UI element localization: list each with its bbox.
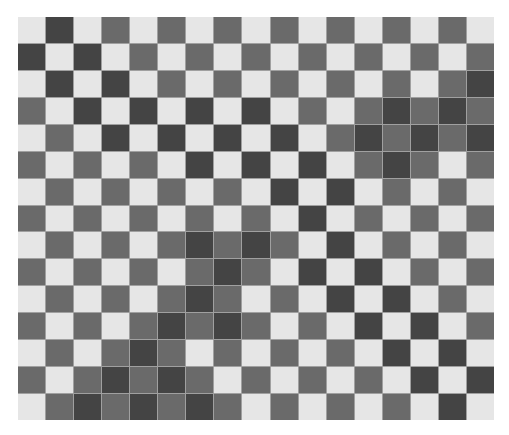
board-cell[interactable] (130, 206, 157, 232)
board-cell[interactable] (18, 179, 45, 205)
board-cell[interactable] (271, 17, 298, 43)
board-cell[interactable] (130, 44, 157, 70)
board-cell[interactable] (411, 206, 438, 232)
board-cell[interactable] (214, 44, 241, 70)
board-cell[interactable] (411, 340, 438, 366)
board-cell[interactable] (355, 179, 382, 205)
board-cell[interactable] (355, 313, 382, 339)
board-cell[interactable] (158, 232, 185, 258)
board-cell[interactable] (242, 232, 269, 258)
board-cell[interactable] (102, 152, 129, 178)
board-cell[interactable] (102, 313, 129, 339)
board-cell[interactable] (186, 152, 213, 178)
board-cell[interactable] (355, 17, 382, 43)
board-cell[interactable] (102, 71, 129, 97)
board-cell[interactable] (242, 179, 269, 205)
board-cell[interactable] (467, 152, 494, 178)
board-cell[interactable] (411, 232, 438, 258)
board-cell[interactable] (74, 44, 101, 70)
board-cell[interactable] (355, 125, 382, 151)
board-cell[interactable] (186, 367, 213, 393)
board-cell[interactable] (299, 340, 326, 366)
board-cell[interactable] (271, 286, 298, 312)
board-cell[interactable] (355, 232, 382, 258)
board-cell[interactable] (186, 71, 213, 97)
board-cell[interactable] (383, 17, 410, 43)
board-cell[interactable] (186, 125, 213, 151)
board-cell[interactable] (130, 232, 157, 258)
board-cell[interactable] (299, 44, 326, 70)
board-cell[interactable] (46, 17, 73, 43)
board-cell[interactable] (439, 206, 466, 232)
board-cell[interactable] (130, 394, 157, 420)
board-cell[interactable] (383, 152, 410, 178)
board-cell[interactable] (242, 206, 269, 232)
board-cell[interactable] (18, 206, 45, 232)
board-cell[interactable] (74, 313, 101, 339)
board-cell[interactable] (74, 125, 101, 151)
board-cell[interactable] (186, 98, 213, 124)
board-cell[interactable] (383, 98, 410, 124)
board-cell[interactable] (18, 394, 45, 420)
board-cell[interactable] (299, 179, 326, 205)
board-cell[interactable] (411, 98, 438, 124)
board-cell[interactable] (74, 206, 101, 232)
board-cell[interactable] (102, 44, 129, 70)
board-cell[interactable] (214, 71, 241, 97)
board-cell[interactable] (383, 367, 410, 393)
board-cell[interactable] (130, 17, 157, 43)
board-cell[interactable] (467, 394, 494, 420)
board-cell[interactable] (18, 259, 45, 285)
board-cell[interactable] (214, 313, 241, 339)
board-cell[interactable] (214, 179, 241, 205)
board-cell[interactable] (130, 286, 157, 312)
board-cell[interactable] (411, 259, 438, 285)
board-cell[interactable] (18, 17, 45, 43)
board-cell[interactable] (355, 206, 382, 232)
board-cell[interactable] (46, 98, 73, 124)
board-cell[interactable] (327, 367, 354, 393)
board-cell[interactable] (46, 206, 73, 232)
board-cell[interactable] (102, 98, 129, 124)
board-cell[interactable] (46, 44, 73, 70)
board-cell[interactable] (186, 206, 213, 232)
board-cell[interactable] (214, 17, 241, 43)
board-cell[interactable] (439, 44, 466, 70)
board-cell[interactable] (299, 232, 326, 258)
board-cell[interactable] (102, 340, 129, 366)
board-cell[interactable] (102, 17, 129, 43)
board-cell[interactable] (327, 259, 354, 285)
board-cell[interactable] (46, 340, 73, 366)
board-cell[interactable] (327, 44, 354, 70)
board-cell[interactable] (383, 125, 410, 151)
board-cell[interactable] (186, 340, 213, 366)
board-cell[interactable] (74, 232, 101, 258)
board-cell[interactable] (46, 179, 73, 205)
board-cell[interactable] (46, 232, 73, 258)
board-cell[interactable] (271, 98, 298, 124)
board-cell[interactable] (186, 286, 213, 312)
board-cell[interactable] (271, 313, 298, 339)
board-cell[interactable] (383, 313, 410, 339)
board-cell[interactable] (327, 340, 354, 366)
board-cell[interactable] (18, 125, 45, 151)
board-cell[interactable] (271, 44, 298, 70)
board-cell[interactable] (327, 286, 354, 312)
board-cell[interactable] (439, 286, 466, 312)
board-cell[interactable] (411, 313, 438, 339)
board-cell[interactable] (186, 44, 213, 70)
board-cell[interactable] (130, 340, 157, 366)
board-cell[interactable] (327, 17, 354, 43)
board-cell[interactable] (214, 98, 241, 124)
board-cell[interactable] (411, 394, 438, 420)
board-cell[interactable] (74, 71, 101, 97)
board-cell[interactable] (439, 152, 466, 178)
board-cell[interactable] (130, 152, 157, 178)
board-cell[interactable] (158, 313, 185, 339)
board-cell[interactable] (130, 367, 157, 393)
board-cell[interactable] (102, 394, 129, 420)
board-cell[interactable] (130, 98, 157, 124)
board-cell[interactable] (299, 98, 326, 124)
board-cell[interactable] (467, 340, 494, 366)
board-cell[interactable] (299, 313, 326, 339)
